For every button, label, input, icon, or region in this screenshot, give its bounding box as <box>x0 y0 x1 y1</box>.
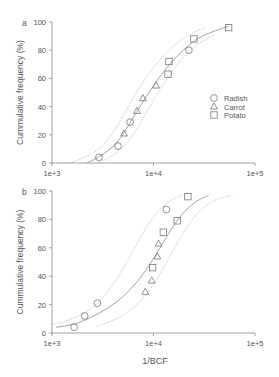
x-tick-label: 1e+3 <box>44 339 61 348</box>
y-tick-label: 100 <box>33 18 46 27</box>
legend: RadishCarrotPotato <box>211 94 248 120</box>
panel-label: b <box>22 187 27 197</box>
y-tick-label: 20 <box>38 301 46 310</box>
panel-label: a <box>22 18 27 28</box>
figure: 0204060801001e+31e+41e+5Cummulative freq… <box>0 0 279 377</box>
y-axis-label: Cummulative frequency (%) <box>15 40 25 145</box>
marker-circle <box>81 313 88 320</box>
marker-circle <box>211 95 218 102</box>
marker-circle <box>163 206 170 213</box>
panel-b: 0204060801001e+31e+41e+5Cummulative freq… <box>15 187 263 348</box>
figure-canvas: 0204060801001e+31e+41e+5Cummulative freq… <box>0 0 279 377</box>
y-tick-label: 20 <box>38 131 46 140</box>
fit-curve <box>87 26 229 163</box>
marker-square <box>166 58 172 64</box>
y-tick-label: 60 <box>38 74 46 83</box>
marker-triangle <box>155 240 162 246</box>
marker-square <box>160 229 166 235</box>
x-tick-label: 1e+5 <box>247 169 264 178</box>
y-tick-label: 40 <box>38 103 46 112</box>
confidence-bound-curve <box>70 28 205 163</box>
marker-triangle <box>211 103 218 109</box>
marker-square <box>165 71 171 77</box>
marker-square <box>211 112 217 118</box>
marker-circle <box>71 324 78 331</box>
y-tick-label: 60 <box>38 244 46 253</box>
x-axis-label: 1/BCF <box>142 356 168 366</box>
y-axis-label: Cummulative frequency (%) <box>15 209 25 314</box>
x-tick-label: 1e+3 <box>44 169 61 178</box>
y-tick-label: 80 <box>38 215 46 224</box>
marker-square <box>185 193 191 199</box>
marker-square <box>225 24 231 30</box>
marker-square <box>149 264 155 270</box>
marker-triangle <box>148 277 155 283</box>
x-tick-label: 1e+5 <box>247 339 264 348</box>
legend-label-potato: Potato <box>224 111 246 120</box>
y-tick-label: 0 <box>42 329 46 338</box>
fit-curve <box>56 195 209 327</box>
marker-circle <box>115 143 122 150</box>
x-tick-label: 1e+4 <box>145 169 162 178</box>
y-tick-label: 80 <box>38 46 46 55</box>
y-tick-label: 40 <box>38 272 46 281</box>
confidence-bound-curve <box>97 195 232 326</box>
y-tick-label: 100 <box>33 187 46 196</box>
y-tick-label: 0 <box>42 159 46 168</box>
marker-circle <box>185 47 192 54</box>
x-tick-label: 1e+4 <box>145 339 162 348</box>
